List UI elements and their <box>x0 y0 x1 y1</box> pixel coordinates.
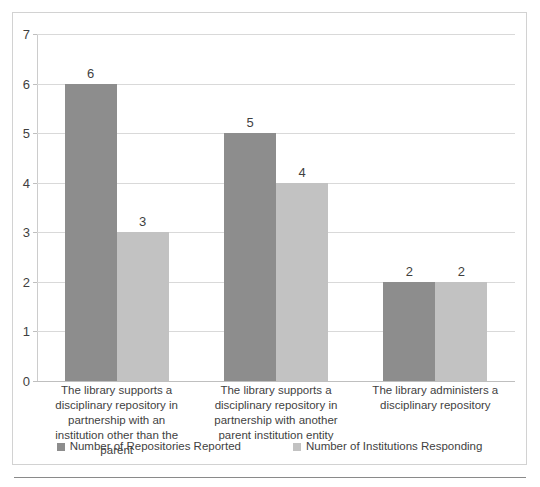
legend-swatch-icon-0 <box>57 443 65 451</box>
y-tick-mark-1 <box>33 331 37 332</box>
y-tick-mark-6 <box>33 84 37 85</box>
y-tick-label-1: 1 <box>23 325 30 338</box>
y-tick-label-3: 3 <box>23 226 30 239</box>
y-tick-label-4: 4 <box>23 176 30 189</box>
bar-c2-s1[interactable]: 2 <box>435 282 487 381</box>
y-tick-label-0: 0 <box>23 375 30 388</box>
y-tick-label-5: 5 <box>23 127 30 140</box>
legend-label-1: Number of Institutions Responding <box>306 441 482 453</box>
chart-legend: Number of Repositories ReportedNumber of… <box>13 441 526 453</box>
y-tick-mark-4 <box>33 183 37 184</box>
y-tick-label-7: 7 <box>23 28 30 41</box>
legend-swatch-icon-1 <box>293 443 301 451</box>
bar-value-label: 4 <box>276 166 328 179</box>
y-tick-mark-0 <box>33 381 37 382</box>
gridline-7 <box>37 34 515 35</box>
bar-c1-s0[interactable]: 5 <box>224 133 276 381</box>
bar-value-label: 3 <box>117 215 169 228</box>
gridline-0 <box>37 381 515 382</box>
y-axis-line <box>37 34 38 381</box>
legend-label-0: Number of Repositories Reported <box>70 441 241 453</box>
y-tick-mark-3 <box>33 232 37 233</box>
bar-c1-s1[interactable]: 4 <box>276 183 328 381</box>
y-tick-mark-5 <box>33 133 37 134</box>
y-tick-label-6: 6 <box>23 77 30 90</box>
y-tick-mark-2 <box>33 282 37 283</box>
bar-value-label: 2 <box>383 265 435 278</box>
bar-value-label: 5 <box>224 116 276 129</box>
y-tick-label-2: 2 <box>23 275 30 288</box>
bar-value-label: 6 <box>65 67 117 80</box>
bar-c0-s1[interactable]: 3 <box>117 232 169 381</box>
legend-item-1[interactable]: Number of Institutions Responding <box>293 441 482 453</box>
bar-c0-s0[interactable]: 6 <box>65 84 117 381</box>
chart-frame: 01234567 635422 The library supports a d… <box>12 12 527 465</box>
y-tick-mark-7 <box>33 34 37 35</box>
page-divider-rule <box>14 477 526 478</box>
plot-area: 01234567 635422 <box>37 34 515 381</box>
bar-c2-s0[interactable]: 2 <box>383 282 435 381</box>
bar-value-label: 2 <box>435 265 487 278</box>
legend-item-0[interactable]: Number of Repositories Reported <box>57 441 241 453</box>
